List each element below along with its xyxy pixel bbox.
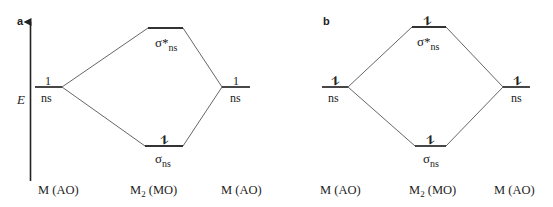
electron-pair-icon: ⥮ xyxy=(423,14,432,28)
electron-pair-icon: ⥮ xyxy=(160,133,169,147)
sigma-star-label-b: σ*ns xyxy=(417,34,440,52)
panel-label-a: a xyxy=(17,15,24,27)
panel-label-b: b xyxy=(323,15,330,27)
bottom-label-mid-a: M2 (MO) xyxy=(130,183,177,199)
bottom-label-right-a: M (AO) xyxy=(221,183,262,197)
bottom-label-left-a: M (AO) xyxy=(38,183,79,197)
left-ao-label-b: ns xyxy=(328,91,339,105)
left-ao-label-a: ns xyxy=(41,91,52,105)
mo-diagram: a E 1 ⥮ 1 ns σ*ns σns ns M (AO) M2 (MO) … xyxy=(0,0,553,207)
bottom-label-left-b: M (AO) xyxy=(320,183,361,197)
bottom-label-mid-b: M2 (MO) xyxy=(409,183,456,199)
electron-up-icon: 1 xyxy=(233,74,239,88)
electron-pair-icon: ⥮ xyxy=(513,74,522,88)
electron-pair-icon: ⥮ xyxy=(426,133,435,147)
sigma-star-label-a: σ*ns xyxy=(155,35,178,53)
right-ao-label-a: ns xyxy=(230,91,241,105)
electron-up-icon: 1 xyxy=(45,74,51,88)
sigma-label-b: σns xyxy=(423,151,439,169)
panel-b: b ⥮ ⥮ ⥮ ⥮ ns σ*ns σns ns M (AO) M2 (MO) … xyxy=(320,14,535,199)
right-ao-label-b: ns xyxy=(511,91,522,105)
energy-axis-label: E xyxy=(16,92,25,107)
panel-a: a E 1 ⥮ 1 ns σ*ns σns ns M (AO) M2 (MO) … xyxy=(16,15,262,199)
sigma-label-a: σns xyxy=(155,151,171,169)
electron-pair-icon: ⥮ xyxy=(331,74,340,88)
correlation-lines-a xyxy=(62,28,222,146)
bottom-label-right-b: M (AO) xyxy=(494,183,535,197)
